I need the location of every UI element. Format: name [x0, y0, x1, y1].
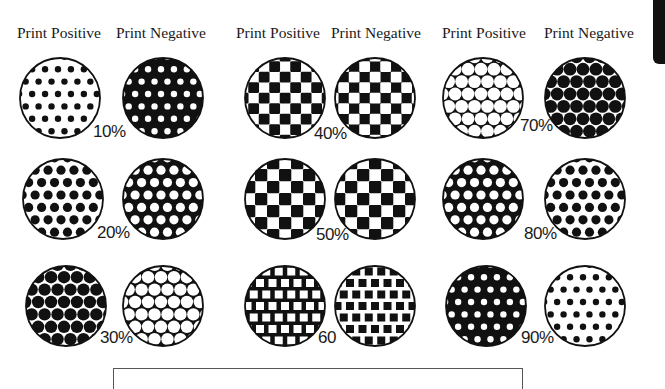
header-label: Print Negative: [544, 24, 634, 42]
header-label: Print Negative: [331, 24, 421, 42]
halftone-circle-20-pos: [21, 157, 105, 241]
halftone-circle-80-pos: [441, 157, 525, 241]
halftone-circle-10-neg: [121, 56, 205, 140]
percent-label: 20%: [97, 223, 130, 243]
percent-label: 10%: [93, 122, 126, 142]
percent-label: 40%: [314, 124, 347, 144]
halftone-circle-90-pos: [444, 264, 528, 348]
header-label: Print Negative: [116, 24, 206, 42]
halftone-circle-70-neg: [543, 56, 627, 140]
halftone-circle-70-pos: [441, 56, 525, 140]
header-label: Print Positive: [17, 24, 101, 42]
percent-label: 70%: [520, 116, 553, 136]
percent-label: 90%: [521, 328, 554, 348]
page-corner-tab: [653, 0, 665, 64]
header-label: Print Positive: [236, 24, 320, 42]
header-label: Print Positive: [442, 24, 526, 42]
percent-label: 80%: [524, 224, 557, 244]
halftone-circle-30-pos: [24, 264, 108, 348]
percent-label: 30%: [100, 328, 133, 348]
percent-label: 50%: [316, 225, 349, 245]
caption-box: [113, 368, 523, 389]
halftone-circle-50-pos: [243, 157, 327, 241]
halftone-circle-60-neg: [333, 264, 417, 348]
halftone-circle-60-pos: [243, 264, 327, 348]
halftone-circle-10-pos: [18, 56, 102, 140]
percent-label: 60: [318, 328, 336, 348]
halftone-circle-30-neg: [121, 264, 205, 348]
halftone-circle-20-neg: [121, 157, 205, 241]
halftone-circle-90-neg: [543, 264, 627, 348]
